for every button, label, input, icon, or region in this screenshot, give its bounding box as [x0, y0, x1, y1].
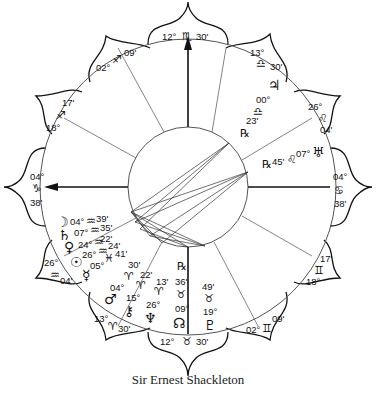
- svg-text:05°: 05°: [90, 260, 105, 271]
- svg-text:49': 49': [202, 281, 215, 292]
- svg-text:♉: ♉: [182, 335, 192, 348]
- svg-text:04': 04': [60, 275, 73, 286]
- svg-text:12°: 12°: [162, 31, 177, 42]
- svg-text:38': 38': [30, 197, 43, 208]
- svg-text:30': 30': [128, 259, 141, 270]
- svg-text:17': 17': [62, 97, 75, 108]
- svg-text:℞: ℞: [240, 127, 250, 140]
- svg-text:♀: ♀: [64, 239, 74, 255]
- svg-text:♊: ♊: [262, 322, 272, 335]
- svg-text:09': 09': [272, 313, 285, 324]
- svg-text:♐: ♐: [112, 53, 122, 66]
- svg-text:♏: ♏: [182, 30, 192, 43]
- svg-text:♇: ♇: [204, 317, 217, 333]
- svg-text:35': 35': [100, 222, 113, 233]
- svg-text:18°: 18°: [46, 122, 61, 133]
- svg-text:12°: 12°: [160, 336, 175, 347]
- svg-text:09': 09': [124, 47, 137, 58]
- svg-text:36': 36': [175, 276, 188, 287]
- natal-chart-wheel: 12° ♏ 30' 12° ♉ 30' 04° ♑ 38' 04° ♋ 38' …: [0, 0, 376, 394]
- svg-text:30': 30': [118, 323, 131, 334]
- svg-text:♆: ♆: [144, 310, 157, 326]
- svg-text:♃: ♃: [268, 77, 281, 93]
- svg-text:♑: ♑: [32, 182, 42, 195]
- svg-text:13': 13': [156, 276, 169, 287]
- svg-text:♅: ♅: [312, 144, 325, 160]
- svg-text:04°: 04°: [70, 216, 85, 227]
- svg-text:♈: ♈: [124, 270, 134, 283]
- svg-text:℞: ℞: [177, 260, 187, 273]
- svg-text:02°: 02°: [96, 62, 111, 73]
- svg-text:♈: ♈: [108, 320, 118, 333]
- planet-neptune: ♆ 26° ♈ 13': [144, 276, 169, 326]
- svg-text:17': 17': [320, 253, 333, 264]
- svg-text:45': 45': [272, 156, 285, 167]
- svg-text:04°: 04°: [30, 171, 45, 182]
- svg-text:38': 38': [334, 198, 347, 209]
- svg-text:04°: 04°: [333, 171, 348, 182]
- svg-text:♉: ♉: [204, 292, 214, 305]
- planet-pluto: 49' ♉ 19° ♇: [202, 281, 218, 333]
- mc-label: 12° ♏ 30': [162, 30, 209, 43]
- svg-text:♓: ♓: [104, 252, 114, 265]
- svg-text:22': 22': [140, 269, 153, 280]
- svg-text:04°: 04°: [110, 282, 125, 293]
- svg-text:23': 23': [246, 115, 259, 126]
- svg-text:♈: ♈: [136, 279, 146, 292]
- svg-text:15°: 15°: [126, 292, 141, 303]
- svg-text:30': 30': [196, 31, 209, 42]
- svg-text:30': 30': [270, 61, 283, 72]
- svg-text:30': 30': [196, 336, 209, 347]
- svg-text:18°: 18°: [306, 276, 321, 287]
- planet-uranus: ℞ 45' ♌ 07° ♅: [262, 144, 325, 171]
- svg-text:19°: 19°: [203, 306, 218, 317]
- svg-text:♋: ♋: [334, 184, 344, 197]
- svg-text:04': 04': [320, 124, 333, 135]
- svg-text:26°: 26°: [44, 257, 59, 268]
- chart-title: Sir Ernest Shackleton: [0, 372, 376, 388]
- svg-text:26°: 26°: [308, 101, 323, 112]
- svg-text:℞: ℞: [262, 158, 272, 171]
- planet-north-node: ℞ 36' ♉ 09° ☊: [173, 260, 190, 331]
- svg-text:♒: ♒: [50, 269, 60, 282]
- svg-text:07°: 07°: [74, 227, 89, 238]
- svg-text:02°: 02°: [246, 324, 261, 335]
- svg-text:♉: ♉: [176, 288, 186, 301]
- svg-text:☊: ☊: [173, 315, 185, 331]
- svg-text:26°: 26°: [82, 249, 97, 260]
- svg-text:26°: 26°: [146, 299, 161, 310]
- planet-jupiter: ♃ 00° ♎ 23' ℞: [240, 77, 281, 140]
- svg-text:♎: ♎: [256, 57, 266, 70]
- svg-text:⚷: ⚷: [124, 303, 134, 319]
- svg-text:00°: 00°: [256, 94, 271, 105]
- svg-text:41': 41': [115, 248, 128, 259]
- svg-text:07°: 07°: [296, 148, 311, 159]
- ic-label: 12° ♉ 30': [160, 335, 209, 348]
- svg-text:☉: ☉: [70, 254, 83, 270]
- svg-text:♂: ♂: [104, 291, 117, 307]
- svg-text:♐: ♐: [56, 109, 66, 122]
- svg-text:09°: 09°: [175, 303, 190, 314]
- svg-text:13°: 13°: [94, 313, 109, 324]
